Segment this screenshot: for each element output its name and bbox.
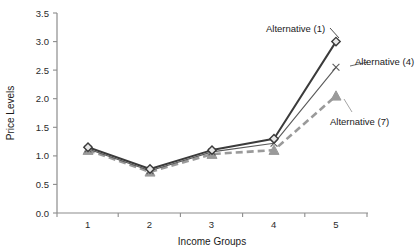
y-tick-label-2.0: 2.0 [36,93,49,104]
annotation-alternative-1: Alternative (1) [266,23,325,34]
y-tick-label-3.5: 3.5 [36,8,49,19]
y-tick-label-2.5: 2.5 [36,65,49,76]
x-tick-label-1: 1 [85,219,90,230]
x-tick-label-4: 4 [271,219,276,230]
x-tick-label-2: 2 [147,219,152,230]
annotation-alternative-4: Alternative (4) [355,56,414,67]
y-tick-label-3.0: 3.0 [36,36,49,47]
y-tick-label-1.0: 1.0 [36,150,49,161]
y-axis-title: Price Levels [5,86,16,140]
series-markers-alternative-1 [84,37,340,173]
y-tick-label-0.5: 0.5 [36,179,49,190]
annotation-alternative-7: Alternative (7) [330,116,389,127]
x-axis-title: Income Groups [178,236,246,247]
x-tick-marks [57,213,367,217]
x-tick-label-5: 5 [333,219,338,230]
chart-container: 3.5 3.0 2.5 2.0 1.5 1.0 0.5 0.0 1 2 3 4 … [0,0,416,252]
line-chart: 3.5 3.0 2.5 2.0 1.5 1.0 0.5 0.0 1 2 3 4 … [0,0,416,252]
x-tick-label-3: 3 [209,219,214,230]
y-tick-label-1.5: 1.5 [36,122,49,133]
y-tick-label-0.0: 0.0 [36,208,49,219]
